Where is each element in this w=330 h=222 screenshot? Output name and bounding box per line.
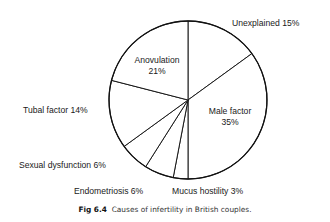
caption-text: Causes of infertility in British couples… — [112, 205, 252, 214]
figure-caption: Fig 6.4 Causes of infertility in British… — [0, 205, 330, 214]
figure-label: Fig 6.4 — [78, 205, 107, 214]
slice-label-endometriosis: Endometriosis 6% — [74, 186, 144, 196]
slice-label-tubal-factor: Tubal factor 14% — [23, 105, 88, 115]
slice-label-mucus-hostility: Mucus hostility 3% — [172, 186, 244, 196]
pie-chart: Unexplained 15%Male factor35%Mucus hosti… — [0, 0, 330, 222]
slice-label-sexual-dysfunction: Sexual dysfunction 6% — [19, 160, 106, 170]
pie-slices — [109, 21, 267, 179]
slice-label-unexplained: Unexplained 15% — [232, 18, 300, 28]
